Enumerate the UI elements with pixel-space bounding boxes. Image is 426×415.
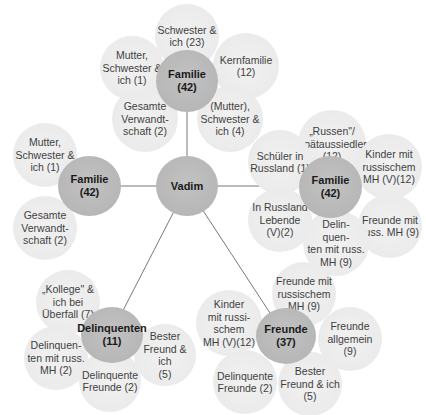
node-label: Schwester & ich (23) xyxy=(158,24,217,49)
node-label: Mutter, Schwester & ich (1) xyxy=(103,49,162,87)
cluster-node-familie-top: Familie (42) xyxy=(156,50,218,112)
satellite-node: Kinder mit russi- schem MH (V)(12) xyxy=(196,290,262,356)
node-label: Familie (42) xyxy=(168,68,206,94)
node-label: (Mutter), Schwester & ich (4) xyxy=(201,100,260,138)
node-label: Vadim xyxy=(171,180,203,193)
node-label: Delin- quen- ten mit russ. MH (9) xyxy=(307,218,364,268)
satellite-node: Kinder mit russischem MH (V)(12) xyxy=(356,134,422,200)
cluster-node-delinquenten: Delinquenten (11) xyxy=(81,307,143,363)
cluster-node-familie-right: Familie (42) xyxy=(299,156,362,218)
node-label: Gesamte Verwandt- schaft (2) xyxy=(21,209,68,247)
satellite-node: Mutter, Schwester & ich (1) xyxy=(100,36,164,100)
node-label: Kernfamilie (12) xyxy=(220,54,273,79)
node-label: Familie (42) xyxy=(71,173,109,199)
node-label: Freunde (37) xyxy=(256,323,316,349)
node-label: Schüler in Russland (1) xyxy=(250,150,310,175)
node-label: Delinquente Freunde (2) xyxy=(82,369,138,394)
node-label: Gesamte Verwandt- schaft (2) xyxy=(121,100,168,138)
node-label: Bester Freund & ich (5) xyxy=(280,365,340,403)
node-label: Kinder mit russischem MH (V)(12) xyxy=(362,148,415,186)
node-label: Freunde mit russ. MH (9) xyxy=(361,214,419,239)
node-label: Delinquente Freunde (2) xyxy=(217,370,273,395)
node-label: Familie (42) xyxy=(312,174,350,200)
node-label: In Russland Lebende (V)(2) xyxy=(252,201,307,239)
cluster-node-freunde: Freunde (37) xyxy=(256,308,316,364)
node-label: Kinder mit russi- schem MH (V)(12) xyxy=(203,298,255,348)
satellite-node: Delinquente Freunde (2) xyxy=(213,350,277,414)
cluster-node-familie-left: Familie (42) xyxy=(58,156,121,216)
node-label: Freunde allgemein (9) xyxy=(328,320,373,358)
node-label: Delinquen- ten mit russ. MH (2) xyxy=(27,339,84,377)
node-label: „Kollege" & ich bei Überfall (7) xyxy=(42,283,94,321)
ego-network-diagram: Schwester & ich (23) Kernfamilie (12) (M… xyxy=(0,0,426,415)
node-label: Delinquenten (11) xyxy=(77,322,147,348)
center-node-vadim: Vadim xyxy=(156,156,218,216)
